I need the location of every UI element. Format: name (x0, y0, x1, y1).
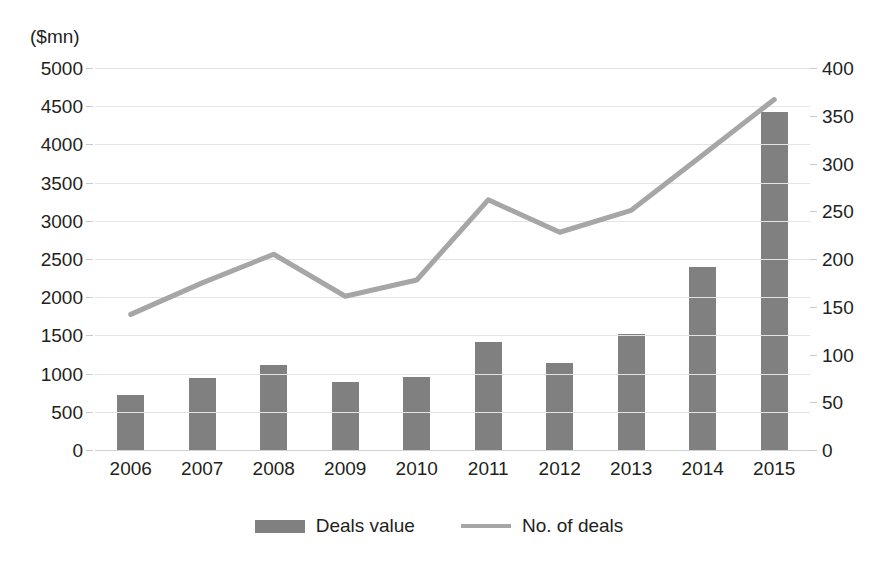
x-axis-label-2009: 2009 (310, 459, 382, 478)
right-axis-tick-label: 150 (822, 298, 854, 317)
legend-label-no-of-deals: No. of deals (522, 515, 623, 537)
no-of-deals-line (131, 100, 775, 315)
chart-legend: Deals value No. of deals (0, 515, 878, 537)
right-axis-tick-mark (810, 259, 817, 260)
right-axis-tick-mark (810, 450, 817, 451)
left-axis-tick-mark (86, 259, 93, 260)
right-axis-tick-label: 0 (822, 441, 833, 460)
legend-line-swatch-icon (461, 524, 511, 528)
left-axis-tick-label: 3500 (41, 174, 83, 193)
left-axis-tick-label: 5000 (41, 59, 83, 78)
chart-container: ($mn) 0500100015002000250030003500400045… (0, 0, 878, 572)
right-axis-tick-mark (810, 355, 817, 356)
x-axis-label-2014: 2014 (667, 459, 739, 478)
x-axis-label-2008: 2008 (238, 459, 310, 478)
left-axis-tick-mark (86, 335, 93, 336)
x-axis-label-2013: 2013 (596, 459, 668, 478)
left-axis-tick-mark (86, 221, 93, 222)
left-axis-tick-label: 3000 (41, 212, 83, 231)
left-axis-tick-mark (86, 412, 93, 413)
x-axis-label-2011: 2011 (453, 459, 525, 478)
x-axis-label-2007: 2007 (167, 459, 239, 478)
left-axis-tick-label: 0 (72, 441, 83, 460)
legend-bar-swatch-icon (255, 520, 305, 533)
right-axis-tick-label: 350 (822, 107, 854, 126)
left-axis-tick-mark (86, 106, 93, 107)
gridline (95, 450, 810, 451)
legend-label-deals-value: Deals value (316, 515, 415, 537)
right-axis-tick-mark (810, 402, 817, 403)
right-axis-tick-label: 400 (822, 59, 854, 78)
legend-item-no-of-deals: No. of deals (461, 515, 623, 537)
left-axis-tick-mark (86, 297, 93, 298)
left-axis-tick-label: 2000 (41, 288, 83, 307)
legend-item-deals-value: Deals value (255, 515, 415, 537)
left-axis-tick-label: 500 (51, 403, 83, 422)
y-axis-unit-label: ($mn) (30, 26, 80, 48)
left-axis-tick-mark (86, 374, 93, 375)
left-axis-tick-label: 4000 (41, 135, 83, 154)
right-axis-tick-mark (810, 307, 817, 308)
right-axis-tick-mark (810, 164, 817, 165)
right-axis-tick-label: 50 (822, 393, 843, 412)
right-axis-tick-label: 200 (822, 250, 854, 269)
left-axis-tick-mark (86, 68, 93, 69)
x-axis-label-2012: 2012 (524, 459, 596, 478)
right-axis-tick-mark (810, 68, 817, 69)
left-axis-tick-label: 1500 (41, 326, 83, 345)
left-axis-tick-label: 2500 (41, 250, 83, 269)
left-axis-tick-label: 4500 (41, 97, 83, 116)
right-axis-tick-label: 300 (822, 155, 854, 174)
line-series-layer (95, 68, 810, 450)
right-axis-tick-mark (810, 211, 817, 212)
x-axis-label-2010: 2010 (381, 459, 453, 478)
right-axis-tick-label: 100 (822, 346, 854, 365)
x-axis-label-2015: 2015 (739, 459, 811, 478)
left-axis-tick-label: 1000 (41, 365, 83, 384)
left-axis-tick-mark (86, 183, 93, 184)
left-axis-tick-mark (86, 144, 93, 145)
x-axis-label-2006: 2006 (95, 459, 167, 478)
right-axis-tick-label: 250 (822, 202, 854, 221)
left-axis-tick-mark (86, 450, 93, 451)
right-axis-tick-mark (810, 116, 817, 117)
